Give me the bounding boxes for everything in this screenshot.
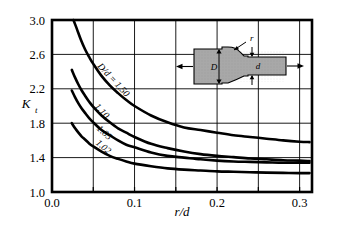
inset-label-d: d xyxy=(256,61,261,71)
y-tick-label: 2.6 xyxy=(29,48,45,62)
y-tick-label: 1.0 xyxy=(29,186,45,200)
figure-stress-concentration-chart: 0.00.10.20.3 1.01.41.82.22.63.0 r/d K t … xyxy=(0,0,343,228)
y-tick-label: 2.2 xyxy=(29,82,45,96)
y-tick-label: 3.0 xyxy=(29,14,45,28)
y-axis-title: K t xyxy=(21,96,38,115)
y-tick-label: 1.4 xyxy=(29,151,45,165)
x-axis-title: r/d xyxy=(174,204,190,219)
y-tick-label: 1.8 xyxy=(29,117,45,131)
chart-canvas: 0.00.10.20.3 1.01.41.82.22.63.0 r/d K t … xyxy=(0,0,343,228)
y-axis-tick-labels: 1.01.41.82.22.63.0 xyxy=(29,14,45,200)
inset-label-D: D xyxy=(210,62,218,72)
x-tick-label: 0.1 xyxy=(127,196,143,210)
x-tick-label: 0.2 xyxy=(209,196,225,210)
x-tick-label: 0.0 xyxy=(44,196,60,210)
shaft-fill-texture xyxy=(196,51,284,82)
y-axis-title-main: K xyxy=(21,96,32,111)
y-axis-title-subscript: t xyxy=(35,105,38,115)
x-tick-label: 0.3 xyxy=(292,196,308,210)
inset-label-r: r xyxy=(250,33,254,43)
